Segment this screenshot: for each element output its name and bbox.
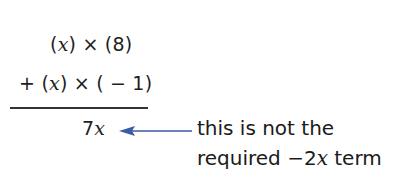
variable-x: x	[58, 33, 69, 55]
times-operator: ×	[68, 72, 97, 94]
paren: )	[60, 72, 68, 94]
variable-x: x	[94, 117, 105, 139]
paren: (	[50, 33, 58, 55]
annotation-line-2: required −2x term	[197, 146, 382, 170]
coefficient: −2	[287, 146, 316, 170]
sum-rule-line	[10, 107, 148, 109]
variable-x: x	[49, 72, 60, 94]
sum-result: 7x	[82, 117, 105, 139]
times-operator: ×	[76, 33, 105, 55]
annotation-line-1: this is not the	[197, 116, 334, 140]
operand: ( − 1)	[96, 72, 152, 94]
text: term	[328, 146, 382, 170]
text: required	[197, 146, 287, 170]
product-line-2: + (x) × ( − 1)	[19, 72, 152, 94]
paren: (	[41, 72, 49, 94]
operand: (8)	[105, 33, 133, 55]
plus-sign: +	[19, 72, 41, 94]
coefficient: 7	[82, 117, 94, 139]
left-arrow-icon	[118, 124, 194, 140]
variable-x: x	[317, 146, 328, 170]
product-line-1: (x) × (8)	[50, 33, 132, 55]
